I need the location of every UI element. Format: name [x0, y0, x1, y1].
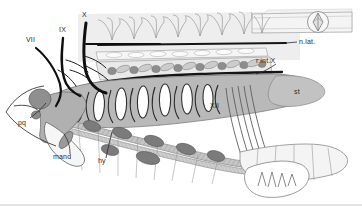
myotome-pocket — [245, 161, 309, 197]
eye-orbit — [29, 89, 51, 109]
dorsal-tube — [252, 12, 352, 33]
label-mand: mand — [53, 153, 71, 160]
label-n-lat: n.lat. — [299, 38, 315, 45]
label-xii: XII — [210, 102, 219, 109]
label-pq: pq — [18, 119, 26, 126]
otic-capsule-rosette — [308, 12, 329, 33]
label-r-int-x: r.int.X — [256, 57, 275, 64]
label-ix: IX — [59, 26, 66, 33]
figure-canvas — [0, 0, 362, 215]
label-vii: VII — [26, 36, 35, 43]
label-st: st — [294, 88, 300, 95]
anatomical-figure: VII IX X n.lat. r.int.X st XII pq mand h… — [0, 0, 362, 215]
quadrate-nodule — [32, 111, 41, 119]
label-hy: hy — [98, 157, 106, 164]
label-x: X — [82, 11, 87, 18]
